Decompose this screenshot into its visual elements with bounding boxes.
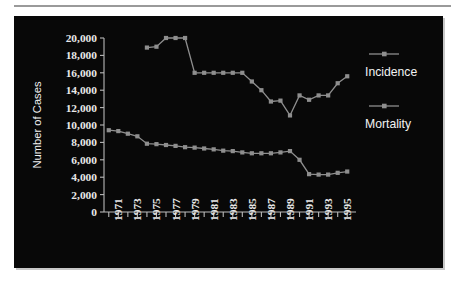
data-point-marker: [231, 149, 235, 153]
x-axis-tick-label: 1985: [246, 198, 258, 221]
data-point-marker: [231, 71, 235, 75]
data-point-marker: [202, 71, 206, 75]
x-axis-tick-label: 1981: [208, 198, 220, 221]
chart-legend: IncidenceMortality: [365, 52, 417, 131]
x-axis-tick-label: 1979: [189, 198, 201, 221]
data-point-marker: [297, 93, 301, 97]
y-axis-tick-label: 20,000: [66, 32, 98, 44]
y-axis-tick-label: 14,000: [66, 84, 98, 96]
data-point-marker: [193, 146, 197, 150]
data-point-marker: [240, 71, 244, 75]
data-point-marker: [250, 79, 254, 83]
data-point-marker: [240, 150, 244, 154]
series-mortality: [107, 128, 350, 177]
data-point-marker: [317, 93, 321, 97]
y-axis-tick-label: 6,000: [71, 154, 97, 166]
y-axis-label-group: 02,0004,0006,0008,00010,00012,00014,0001…: [66, 32, 98, 218]
data-point-marker: [202, 146, 206, 150]
data-point-marker: [336, 171, 340, 175]
data-point-marker: [326, 172, 330, 176]
data-point-marker: [164, 143, 168, 147]
data-point-marker: [259, 88, 263, 92]
series-line: [109, 130, 347, 174]
data-point-marker: [336, 81, 340, 85]
y-axis-title: Number of Cases: [31, 81, 43, 168]
data-point-marker: [269, 99, 273, 103]
data-point-marker: [221, 149, 225, 153]
y-axis-title-text: Number of Cases: [31, 81, 43, 168]
data-point-marker: [173, 36, 177, 40]
x-axis-tick-label: 1995: [341, 198, 353, 221]
x-axis-tick-label: 1971: [112, 198, 124, 221]
series-line: [147, 38, 347, 115]
series-incidence: [145, 36, 350, 118]
data-point-marker: [145, 142, 149, 146]
data-point-marker: [135, 134, 139, 138]
data-point-marker: [212, 71, 216, 75]
data-point-marker: [107, 128, 111, 132]
data-point-marker: [326, 93, 330, 97]
data-point-marker: [317, 172, 321, 176]
legend-label-incidence: Incidence: [365, 65, 417, 79]
data-point-marker: [259, 151, 263, 155]
x-axis-tick-label: 1991: [303, 198, 315, 221]
data-point-marker: [164, 36, 168, 40]
plot-area: 02,0004,0006,0008,00010,00012,00014,0001…: [14, 16, 443, 268]
x-axis-tick-label: 1987: [265, 198, 277, 221]
top-divider-rule: [14, 5, 451, 7]
y-axis-tick-group: [100, 38, 104, 212]
x-axis-tick-label: 1989: [284, 198, 296, 221]
data-point-marker: [288, 113, 292, 117]
y-axis-tick-label: 4,000: [71, 171, 97, 183]
x-axis-tick-label: 1973: [131, 198, 143, 221]
x-axis-tick-label: 1993: [322, 198, 334, 221]
data-point-marker: [250, 151, 254, 155]
data-point-marker: [183, 36, 187, 40]
chart-panel: 02,0004,0006,0008,00010,00012,00014,0001…: [14, 16, 443, 268]
data-point-marker: [126, 132, 130, 136]
y-axis-tick-label: 16,000: [66, 67, 98, 79]
line-chart-svg: 02,0004,0006,0008,00010,00012,00014,0001…: [14, 16, 443, 268]
data-point-marker: [345, 169, 349, 173]
data-point-marker: [278, 150, 282, 154]
data-point-marker: [154, 45, 158, 49]
y-axis-tick-label: 18,000: [66, 49, 98, 61]
data-point-marker: [193, 71, 197, 75]
y-axis-tick-label: 0: [91, 206, 97, 218]
data-point-marker: [116, 129, 120, 133]
x-axis-tick-label: 1983: [227, 198, 239, 221]
data-point-marker: [288, 149, 292, 153]
y-axis-tick-label: 2,000: [71, 189, 97, 201]
data-point-marker: [221, 71, 225, 75]
data-point-marker: [269, 151, 273, 155]
legend-marker-incidence: [382, 52, 387, 57]
data-point-marker: [173, 144, 177, 148]
data-point-marker: [307, 98, 311, 102]
x-axis-tick-label: 1977: [170, 198, 182, 221]
y-axis-tick-label: 8,000: [71, 136, 97, 148]
y-axis-tick-label: 12,000: [66, 102, 98, 114]
data-point-marker: [212, 147, 216, 151]
y-axis-tick-label: 10,000: [66, 119, 98, 131]
data-point-marker: [297, 158, 301, 162]
legend-marker-mortality: [382, 104, 387, 109]
data-point-marker: [145, 45, 149, 49]
data-point-marker: [307, 172, 311, 176]
data-point-marker: [183, 145, 187, 149]
data-point-marker: [345, 74, 349, 78]
x-axis-tick-label: 1975: [150, 198, 162, 221]
data-point-marker: [154, 142, 158, 146]
chart-page: 02,0004,0006,0008,00010,00012,00014,0001…: [0, 0, 455, 284]
x-axis-label-group: 1971197319751977197919811983198519871989…: [112, 198, 353, 221]
data-point-marker: [278, 99, 282, 103]
data-series-group: [107, 36, 350, 177]
legend-label-mortality: Mortality: [365, 117, 412, 131]
